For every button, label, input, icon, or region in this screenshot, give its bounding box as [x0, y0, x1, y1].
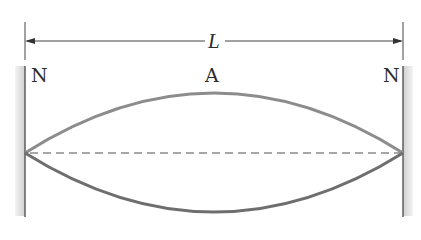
antinode-label: A	[205, 66, 219, 85]
string-lower-curve	[25, 153, 403, 212]
arrowhead-right-icon	[393, 38, 403, 44]
left-wall	[15, 66, 25, 217]
string-upper-curve	[25, 93, 403, 153]
right-node-label: N	[383, 66, 400, 85]
dimension-label: L	[208, 31, 220, 52]
arrowhead-left-icon	[25, 38, 35, 44]
right-wall	[403, 66, 413, 217]
left-node-label: N	[31, 66, 48, 85]
